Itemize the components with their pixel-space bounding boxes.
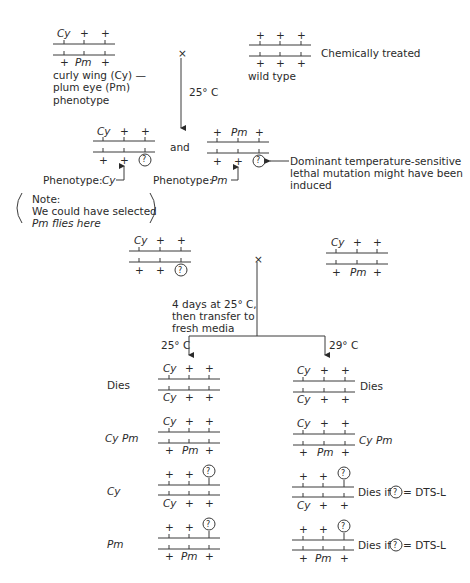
outcome-label: Dies if bbox=[358, 539, 391, 551]
allele: + bbox=[299, 523, 308, 535]
outcome-label: Cy bbox=[107, 485, 121, 497]
allele: + bbox=[320, 364, 329, 376]
allele: Pm bbox=[75, 56, 92, 68]
allele: + bbox=[135, 264, 144, 276]
allele: + bbox=[185, 497, 194, 509]
outcome-label: Pm bbox=[107, 538, 124, 550]
allele: + bbox=[373, 266, 382, 278]
allele: + bbox=[99, 154, 108, 166]
unknown-mutation-icon: ? bbox=[256, 155, 260, 167]
allele: + bbox=[340, 552, 349, 564]
allele: + bbox=[205, 550, 214, 562]
allele: + bbox=[297, 57, 306, 69]
allele: + bbox=[80, 27, 89, 39]
cross-symbol: × bbox=[254, 253, 263, 265]
allele: + bbox=[276, 57, 285, 69]
allele: + bbox=[319, 523, 328, 535]
allele: + bbox=[165, 444, 174, 456]
allele: Cy bbox=[297, 393, 311, 405]
unknown-mutation-icon: ? bbox=[142, 154, 146, 166]
outcome-label: Dies bbox=[360, 380, 383, 392]
note-line: Pm flies here bbox=[32, 217, 101, 229]
allele: + bbox=[213, 126, 222, 138]
allele: + bbox=[299, 552, 308, 564]
allele: + bbox=[255, 126, 264, 138]
allele: + bbox=[101, 56, 110, 68]
allele: Cy bbox=[163, 391, 177, 403]
allele: Cy bbox=[297, 499, 311, 511]
caption-line: plum eye (Pm) bbox=[53, 81, 130, 93]
allele: + bbox=[185, 521, 194, 533]
allele: Cy bbox=[134, 234, 148, 246]
allele: + bbox=[177, 234, 186, 246]
unknown-mutation-icon: ? bbox=[206, 466, 210, 478]
allele: + bbox=[101, 27, 110, 39]
allele: + bbox=[185, 415, 194, 427]
unknown-mutation-icon: ? bbox=[341, 521, 345, 533]
allele: Cy bbox=[331, 236, 345, 248]
allele: + bbox=[373, 236, 382, 248]
unknown-mutation-icon: ? bbox=[341, 468, 345, 480]
allele: + bbox=[205, 497, 214, 509]
allele: + bbox=[341, 417, 350, 429]
allele: Pm bbox=[231, 126, 248, 138]
allele: + bbox=[156, 264, 165, 276]
unknown-mutation-icon: ? bbox=[393, 487, 397, 499]
outcome-label: = DTS-L bbox=[403, 486, 446, 498]
unknown-mutation-icon: ? bbox=[206, 519, 210, 531]
phenotype-label: Phenotype: bbox=[43, 174, 103, 186]
allele: + bbox=[165, 521, 174, 533]
allele: + bbox=[234, 155, 243, 167]
branch-temp-25: 25° C bbox=[161, 339, 190, 351]
allele: + bbox=[185, 391, 194, 403]
allele: + bbox=[340, 499, 349, 511]
annotation-line: induced bbox=[290, 179, 332, 191]
allele: + bbox=[332, 266, 341, 278]
chemically-treated-label: Chemically treated bbox=[321, 47, 421, 59]
outcome-label: = DTS-L bbox=[403, 539, 446, 551]
unknown-mutation-icon: ? bbox=[393, 540, 397, 552]
allele: Cy bbox=[163, 362, 177, 374]
allele: + bbox=[156, 234, 165, 246]
allele: Cy bbox=[297, 364, 311, 376]
allele: Pm bbox=[181, 550, 198, 562]
allele: + bbox=[320, 417, 329, 429]
allele: Cy bbox=[57, 27, 71, 39]
allele: Pm bbox=[317, 446, 334, 458]
allele: + bbox=[256, 57, 265, 69]
phenotype-value: Pm bbox=[211, 174, 228, 186]
allele: + bbox=[341, 393, 350, 405]
caption-line: phenotype bbox=[53, 94, 109, 106]
allele: + bbox=[297, 29, 306, 41]
allele: + bbox=[256, 29, 265, 41]
wild-type-caption: wild type bbox=[248, 70, 296, 82]
caption-line: curly wing (Cy) — bbox=[53, 69, 146, 81]
allele: + bbox=[185, 362, 194, 374]
allele: Pm bbox=[315, 552, 332, 564]
allele: Pm bbox=[350, 266, 367, 278]
allele: + bbox=[341, 446, 350, 458]
allele: + bbox=[319, 470, 328, 482]
allele: Cy bbox=[163, 497, 177, 509]
allele: + bbox=[165, 468, 174, 480]
outcome-label: Cy Pm bbox=[105, 432, 138, 444]
allele: + bbox=[205, 362, 214, 374]
allele: + bbox=[120, 154, 129, 166]
outcome-label: Cy Pm bbox=[359, 434, 392, 446]
allele: + bbox=[165, 550, 174, 562]
allele: + bbox=[205, 444, 214, 456]
allele: + bbox=[205, 415, 214, 427]
annotation-line: Dominant temperature-sensitive bbox=[290, 155, 461, 167]
branch-temp-29: 29° C bbox=[329, 339, 358, 351]
instruction-line: then transfer to bbox=[172, 310, 255, 322]
allele: + bbox=[299, 446, 308, 458]
note-line: We could have selected bbox=[32, 205, 157, 217]
phenotype-label: Phenotype: bbox=[153, 174, 213, 186]
allele: + bbox=[141, 125, 150, 137]
instruction-line: fresh media bbox=[172, 322, 234, 334]
note-line: Note: bbox=[32, 193, 60, 205]
allele: + bbox=[319, 499, 328, 511]
allele: Cy bbox=[297, 417, 311, 429]
allele: Cy bbox=[97, 125, 111, 137]
allele: + bbox=[353, 236, 362, 248]
